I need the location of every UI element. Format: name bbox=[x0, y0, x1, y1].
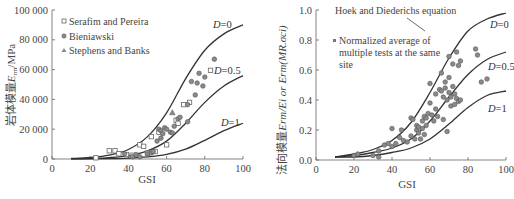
data-point-square bbox=[117, 152, 121, 156]
data-point-circle bbox=[212, 57, 217, 62]
data-point-circle bbox=[371, 153, 376, 158]
data-point-circle bbox=[416, 131, 421, 136]
right-x-axis-title: GSI bbox=[398, 178, 416, 190]
x-tick-label: 80 bbox=[200, 163, 211, 174]
y-tick-label: 1.0 bbox=[299, 5, 312, 16]
data-point-circle bbox=[443, 80, 448, 85]
right-chart-legend: Normalized average of multiple tests at … bbox=[333, 35, 441, 70]
data-point-circle bbox=[430, 113, 435, 118]
data-point-square bbox=[94, 156, 98, 160]
right-y-axis-title: 法向模量Erm/Ei or Erm(MR.σci) bbox=[275, 25, 289, 175]
right-chart-points bbox=[352, 47, 490, 160]
data-point-circle bbox=[160, 131, 165, 136]
legend-line-3: site bbox=[339, 59, 353, 70]
y-tick-label: 100 000 bbox=[14, 5, 48, 16]
y-tick-label: 40 000 bbox=[19, 94, 48, 105]
x-tick-label: 0 bbox=[313, 164, 318, 175]
data-point-circle bbox=[451, 62, 456, 67]
legend-circle-marker-icon bbox=[62, 34, 66, 38]
x-tick-label: 100 bbox=[498, 164, 514, 175]
data-point-circle bbox=[390, 126, 395, 131]
x-tick-label: 40 bbox=[123, 163, 134, 174]
y-tick-label: 0.8 bbox=[299, 35, 312, 46]
data-point-circle bbox=[424, 116, 429, 121]
data-point-circle bbox=[189, 79, 194, 84]
data-point-circle bbox=[394, 141, 399, 146]
right-chart-panel: 0.00.20.40.60.81.0020406080100 Hoek and … bbox=[257, 0, 514, 199]
data-point-circle bbox=[138, 154, 143, 159]
data-point-circle bbox=[447, 90, 452, 95]
data-point-square bbox=[107, 149, 111, 153]
data-point-circle bbox=[164, 127, 169, 132]
x-tick-label: 80 bbox=[463, 164, 474, 175]
data-point-circle bbox=[443, 86, 448, 91]
y-tick-label: 60 000 bbox=[19, 64, 48, 75]
x-tick-label: 60 bbox=[425, 164, 436, 175]
y-tick-label: 0.6 bbox=[299, 65, 312, 76]
data-point-circle bbox=[456, 63, 461, 68]
data-point-circle bbox=[413, 137, 418, 142]
data-point-circle bbox=[411, 117, 416, 122]
legend-square-marker-icon bbox=[62, 19, 66, 23]
x-tick-label: 60 bbox=[161, 163, 172, 174]
data-point-circle bbox=[201, 84, 206, 89]
data-point-circle bbox=[178, 115, 183, 120]
data-point-circle bbox=[195, 81, 200, 86]
data-point-circle bbox=[185, 102, 190, 107]
curve-label-d05: D=0.5 bbox=[487, 61, 514, 72]
data-point-circle bbox=[458, 98, 463, 103]
data-point-circle bbox=[428, 101, 433, 106]
legend-line-2: multiple tests at the same bbox=[339, 47, 441, 58]
data-point-circle bbox=[185, 119, 190, 124]
x-tick-label: 20 bbox=[349, 164, 360, 175]
right-chart-svg: 0.00.20.40.60.81.0020406080100 Hoek and … bbox=[257, 0, 514, 199]
legend-bieniawski: Bieniawski bbox=[69, 31, 114, 42]
data-point-circle bbox=[376, 149, 381, 154]
data-point-circle bbox=[435, 114, 440, 119]
data-point-circle bbox=[376, 155, 381, 160]
annotation-leader-line bbox=[407, 18, 425, 31]
data-point-circle bbox=[479, 80, 484, 85]
data-point-circle bbox=[433, 107, 438, 112]
legend-line-1: Normalized average of bbox=[339, 35, 431, 46]
y-tick-label: 80 000 bbox=[19, 34, 48, 45]
data-point-circle bbox=[418, 137, 423, 142]
legend-serafim-pereira: Serafim and Pereira bbox=[69, 16, 149, 27]
y-tick-label: 0 bbox=[43, 154, 48, 165]
curve-label-d0: D=0 bbox=[212, 19, 232, 30]
curve-d-0-5 bbox=[71, 76, 243, 159]
data-point-circle bbox=[159, 136, 164, 141]
curve-label-d1: D=1 bbox=[487, 103, 507, 114]
x-tick-label: 20 bbox=[85, 163, 96, 174]
y-tick-label: 20 000 bbox=[19, 124, 48, 135]
data-point-circle bbox=[422, 132, 427, 137]
data-point-circle bbox=[151, 149, 156, 154]
data-point-circle bbox=[473, 47, 478, 52]
y-tick-label: 0.2 bbox=[299, 125, 312, 136]
data-point-circle bbox=[122, 151, 127, 156]
x-tick-label: 40 bbox=[387, 164, 398, 175]
data-point-circle bbox=[454, 50, 459, 55]
data-point-circle bbox=[172, 124, 177, 129]
data-point-circle bbox=[451, 84, 456, 89]
data-point-circle bbox=[447, 75, 452, 80]
legend-circle-marker-icon bbox=[333, 39, 336, 42]
curve-label-d0: D=0 bbox=[489, 19, 509, 30]
data-point-circle bbox=[155, 139, 160, 144]
data-point-circle bbox=[405, 140, 410, 145]
data-point-circle bbox=[399, 128, 404, 133]
data-point-circle bbox=[197, 71, 202, 76]
data-point-square bbox=[149, 134, 153, 138]
data-point-circle bbox=[356, 152, 361, 157]
left-chart-svg: 020 00040 00060 00080 000100 00002040608… bbox=[0, 0, 257, 199]
left-y-axis-title: 岩体模量Erm/MPa bbox=[4, 44, 19, 126]
data-point-square bbox=[141, 144, 145, 148]
left-chart-legend: Serafim and Pereira Bieniawski Stephens … bbox=[62, 16, 150, 56]
legend-triangle-marker-icon bbox=[62, 48, 67, 52]
left-chart-panel: 020 00040 00060 00080 000100 00002040608… bbox=[0, 0, 257, 199]
curve-d-1 bbox=[335, 91, 506, 157]
data-point-circle bbox=[485, 77, 490, 82]
data-point-circle bbox=[439, 71, 444, 76]
data-point-circle bbox=[441, 117, 446, 122]
x-tick-label: 0 bbox=[49, 163, 54, 174]
